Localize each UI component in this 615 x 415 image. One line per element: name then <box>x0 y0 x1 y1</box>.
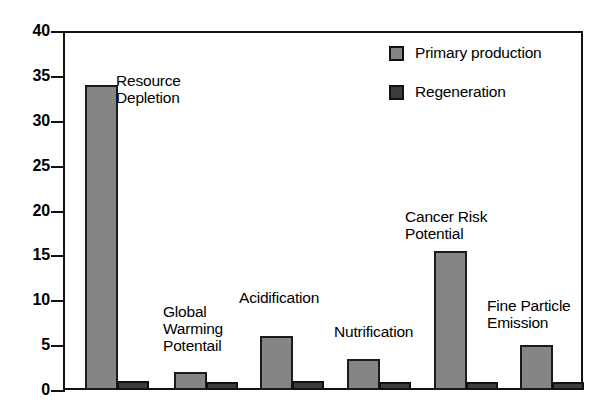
category-label: Global Warming Potentail <box>163 303 223 354</box>
bar-regeneration <box>379 382 411 390</box>
y-axis-tick-label: 30 <box>6 113 50 129</box>
y-axis-tick-label: 10 <box>6 292 50 308</box>
y-axis-tick-label: 5 <box>6 337 50 353</box>
y-axis-tick-label: 15 <box>6 247 50 263</box>
bar-primary-production <box>260 336 293 390</box>
bar-regeneration <box>206 382 238 390</box>
y-axis-tick-label: 35 <box>6 68 50 84</box>
y-axis-tick-label: 40 <box>6 23 50 39</box>
y-axis-tick-label: 0 <box>6 382 50 398</box>
category-label: Acidification <box>239 289 319 306</box>
bar-primary-production <box>85 85 118 390</box>
y-axis-tick-label: 20 <box>6 203 50 219</box>
bar-regeneration <box>292 381 324 390</box>
bar-regeneration <box>552 382 584 390</box>
bar-primary-production <box>520 345 553 390</box>
bar-regeneration <box>466 382 498 390</box>
bar-primary-production <box>347 359 380 390</box>
category-label: Resource Depletion <box>116 72 181 106</box>
y-axis-labels: 4035302520151050 <box>0 0 50 415</box>
category-label: Nutrification <box>334 323 413 340</box>
y-axis-tick-label: 25 <box>6 158 50 174</box>
bar-primary-production <box>434 251 467 390</box>
bar-regeneration <box>117 381 149 390</box>
y-axis-tick <box>51 390 65 392</box>
category-label: Cancer Risk Potential <box>405 208 487 242</box>
bar-chart: 4035302520151050 Resource DepletionGloba… <box>0 0 615 415</box>
bar-primary-production <box>174 372 207 390</box>
category-label: Fine Particle Emission <box>487 297 571 331</box>
